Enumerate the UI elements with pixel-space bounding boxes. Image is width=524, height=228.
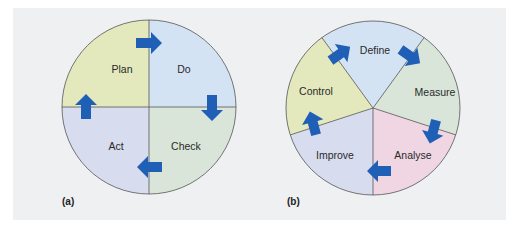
segment-act: [62, 107, 149, 194]
label-improve: Improve: [316, 149, 354, 161]
label-define: Define: [360, 44, 391, 56]
label-control: Control: [299, 85, 333, 97]
caption-a: (a): [62, 196, 74, 207]
segment-plan: [62, 20, 149, 107]
dmaic-cycle: Define Measure Analyse Improve Control (…: [286, 21, 460, 207]
label-measure: Measure: [415, 86, 456, 98]
caption-b: (b): [287, 196, 300, 207]
pdca-cycle: Plan Do Check Act (a): [62, 20, 236, 207]
label-do: Do: [177, 63, 191, 75]
cycle-diagrams: Plan Do Check Act (a) Define Measure Ana…: [0, 0, 524, 228]
segment-do: [149, 20, 236, 107]
label-analyse: Analyse: [394, 149, 432, 161]
label-check: Check: [171, 140, 202, 152]
label-plan: Plan: [111, 63, 132, 75]
label-act: Act: [108, 140, 123, 152]
